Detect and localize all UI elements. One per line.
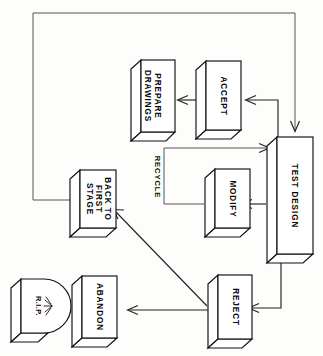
node-test-design[interactable]: TEST DESIGN xyxy=(267,137,313,263)
accept-label: ACCEPT xyxy=(219,76,228,115)
node-abandon[interactable]: ABANDON xyxy=(72,276,117,347)
node-prepare-drawings[interactable]: PREPARE DRAWINGS xyxy=(131,60,175,141)
prepare-drawings-label-line1: PREPARE xyxy=(153,73,162,118)
back-to-first-stage-label-line3: STAGE xyxy=(85,183,94,215)
back-to-first-stage-label-line2: FIRST xyxy=(94,185,103,213)
node-accept[interactable]: ACCEPT xyxy=(196,61,241,139)
prepare-drawings-label-line2: DRAWINGS xyxy=(143,70,152,122)
flowchart-canvas: PREPARE DRAWINGS ACCEPT TEST DESIGN xyxy=(0,0,323,356)
node-back-to-first-stage[interactable]: BACK TO FIRST STAGE xyxy=(70,170,116,237)
connector-reject-to-back-to-first-stage xyxy=(114,210,208,307)
test-design-label: TEST DESIGN xyxy=(290,164,299,229)
edge-label-recycle: RECYCLE xyxy=(153,156,162,199)
back-to-first-stage-label-line1: BACK TO xyxy=(103,177,112,220)
rip-label: R.I.P. xyxy=(34,296,43,316)
reject-label: REJECT xyxy=(231,288,240,326)
node-rip-tombstone[interactable]: R.I.P. xyxy=(11,279,71,342)
modify-label: MODIFY xyxy=(228,180,237,217)
connector-testdesign-to-reject xyxy=(249,262,282,313)
recycle-label: RECYCLE xyxy=(153,156,162,199)
node-modify[interactable]: MODIFY xyxy=(205,169,250,237)
node-reject[interactable]: REJECT xyxy=(208,275,252,348)
connector-testdesign-to-accept xyxy=(246,96,279,144)
abandon-label: ABANDON xyxy=(95,283,104,331)
flowchart-diagram: PREPARE DRAWINGS ACCEPT TEST DESIGN xyxy=(0,0,323,356)
connector-reject-to-abandon xyxy=(128,306,209,315)
